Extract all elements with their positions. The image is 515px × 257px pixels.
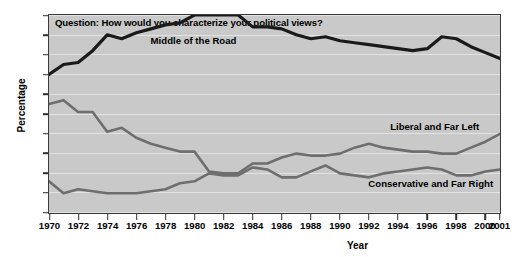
x-tick-label: 1978 [155, 220, 176, 231]
x-tick-mark [484, 214, 486, 220]
x-tick-label: 1986 [271, 220, 292, 231]
series-label: Middle of the Road [151, 35, 237, 46]
x-tick-label: 1994 [387, 220, 408, 231]
x-tick-label: 1970 [39, 220, 60, 231]
x-tick-mark [252, 214, 254, 220]
x-tick-mark [310, 214, 312, 220]
x-tick-label: 1980 [184, 220, 205, 231]
x-axis-title: Year [0, 240, 515, 251]
x-tick-mark [194, 214, 196, 220]
x-tick-mark [368, 214, 370, 220]
series-label: Conservative and Far Right [368, 178, 493, 189]
x-tick-mark [397, 214, 399, 220]
series-label: Liberal and Far Left [390, 121, 479, 132]
x-tick-label: 1976 [126, 220, 147, 231]
x-tick-mark [165, 214, 167, 220]
line-series [49, 100, 500, 173]
x-tick-mark [339, 214, 341, 220]
plot-area: Question: How would you characterize you… [48, 14, 501, 214]
y-axis-title: Percentage [16, 61, 27, 151]
x-tick-label: 1998 [445, 220, 466, 231]
x-tick-mark [78, 214, 80, 220]
x-tick-label: 1984 [242, 220, 263, 231]
x-tick-mark [136, 214, 138, 220]
x-tick-label: 1990 [329, 220, 350, 231]
x-tick-label: 1992 [358, 220, 379, 231]
chart-figure: Percentage 1015202530354045505560 197019… [0, 0, 515, 257]
x-tick-label: 1982 [213, 220, 234, 231]
x-tick-mark [499, 214, 501, 220]
line-series [49, 15, 500, 74]
x-tick-label: 1988 [300, 220, 321, 231]
x-tick-mark [223, 214, 225, 220]
x-tick-label: 1996 [416, 220, 437, 231]
x-tick-label: 1974 [97, 220, 118, 231]
x-tick-mark [426, 214, 428, 220]
x-tick-mark [107, 214, 109, 220]
x-tick-mark [281, 214, 283, 220]
x-tick-mark [455, 214, 457, 220]
x-tick-mark [49, 214, 51, 220]
x-tick-label: 2001 [489, 220, 510, 231]
x-axis-title-text: Year [347, 240, 368, 251]
x-tick-label: 1972 [68, 220, 89, 231]
